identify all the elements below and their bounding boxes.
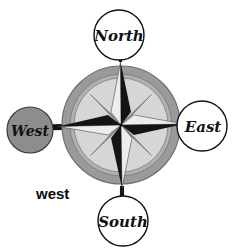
west-caption: west — [35, 185, 69, 202]
compass-rose-canvas: North East South West west — [0, 0, 233, 251]
label-west[interactable]: West — [7, 107, 53, 153]
south-label-text: South — [98, 213, 148, 231]
label-east[interactable]: East — [177, 101, 227, 151]
rose-center-pivot — [119, 123, 122, 126]
north-label-text: North — [93, 27, 143, 45]
compass-rose-figure: North East South West west — [0, 0, 233, 251]
west-label-text: West — [11, 123, 49, 139]
label-south[interactable]: South — [98, 196, 148, 246]
label-north[interactable]: North — [93, 10, 144, 60]
east-label-text: East — [184, 118, 222, 136]
